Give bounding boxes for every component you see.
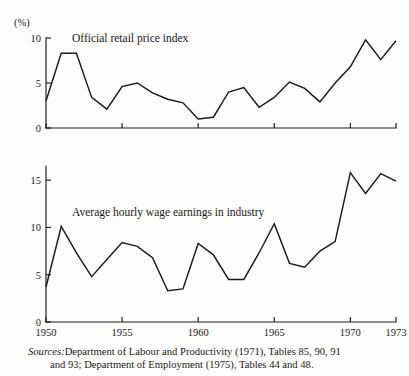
y-tick-label-10: 10 xyxy=(31,33,42,44)
y-tick-label-15: 15 xyxy=(31,175,42,186)
chart-panel-1: 051015195019551960196519701973Average ho… xyxy=(31,166,407,338)
chart-panel-0: 0510Official retail price index xyxy=(31,32,397,134)
charts-svg: 0510Official retail price index051015195… xyxy=(0,0,409,345)
sources-label: Sources: xyxy=(28,346,65,357)
sources-caption: Sources:Department of Labour and Product… xyxy=(28,345,404,371)
x-tick-label-1955: 1955 xyxy=(112,327,133,338)
y-axis-unit-label: (%) xyxy=(14,17,30,29)
y-tick-label-0: 0 xyxy=(36,123,41,134)
series-line-0 xyxy=(46,40,396,119)
x-tick-label-1960: 1960 xyxy=(188,327,209,338)
y-tick-label-5: 5 xyxy=(36,270,41,281)
chart-title-1: Average hourly wage earnings in industry xyxy=(72,206,265,219)
sources-text-line1: Department of Labour and Productivity (1… xyxy=(65,346,341,357)
x-tick-label-1970: 1970 xyxy=(340,327,361,338)
sources-text-line2: and 93; Department of Employment (1975),… xyxy=(28,358,404,371)
y-tick-label-10: 10 xyxy=(31,222,42,233)
chart-title-0: Official retail price index xyxy=(72,32,189,45)
x-tick-label-1973: 1973 xyxy=(386,327,407,338)
x-tick-label-1950: 1950 xyxy=(36,327,57,338)
y-tick-label-5: 5 xyxy=(36,78,41,89)
figure-container: 0510Official retail price index051015195… xyxy=(0,0,409,376)
series-line-1 xyxy=(46,173,396,291)
x-tick-label-1965: 1965 xyxy=(264,327,285,338)
